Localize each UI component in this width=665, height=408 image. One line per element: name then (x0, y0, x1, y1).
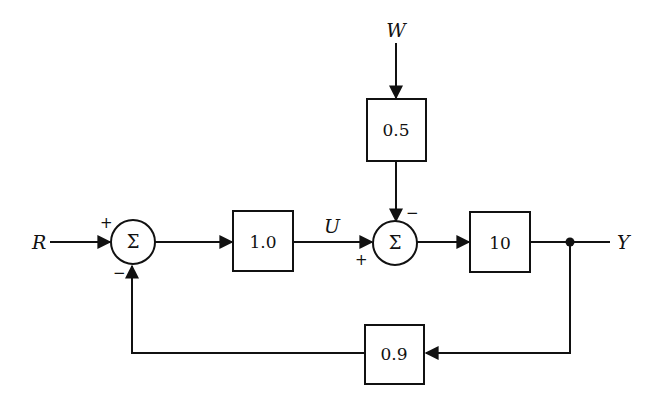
block-diagram: R Σ + − 1.0 U + W 0.5 − Σ 10 Y 0 (0, 0, 665, 408)
sum1-plus-sign: + (100, 214, 113, 232)
signal-label-u: U (324, 215, 341, 237)
disturbance-gain-value: 0.5 (382, 120, 409, 140)
sensor-gain: 0.9 (380, 344, 407, 364)
signal-label-r: R (31, 231, 46, 253)
sum1-minus-sign: − (113, 264, 126, 282)
summing-junction-1: Σ (111, 220, 155, 264)
sum2-plus-sign: + (355, 251, 368, 269)
block-disturbance-gain: 0.5 (367, 99, 426, 161)
plant-gain: 10 (489, 233, 511, 253)
sigma-icon: Σ (389, 232, 402, 253)
signal-label-w: W (386, 19, 407, 41)
summing-junction-2: Σ (373, 221, 417, 265)
signal-label-y: Y (617, 231, 632, 253)
block-controller: 1.0 (233, 211, 293, 271)
block-plant: 10 (470, 212, 530, 272)
block-sensor: 0.9 (365, 325, 424, 384)
sum2-minus-sign: − (406, 204, 419, 222)
controller-gain: 1.0 (249, 232, 276, 252)
wire-sensor-to-sum1 (132, 266, 365, 353)
sigma-icon: Σ (127, 231, 140, 252)
